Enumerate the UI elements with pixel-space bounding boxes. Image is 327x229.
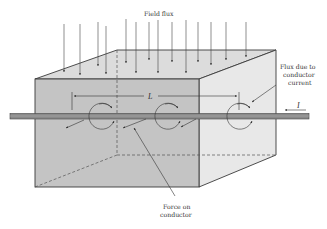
conductor-field-diagram: L I Field flux Flux due to conductor cur… [0,0,327,229]
force-label-2: conductor [160,211,192,218]
flux-due-label-2: conductor [283,71,315,78]
flux-due-label-3: current [288,79,312,86]
flux-due-label-1: Flux due to [280,63,316,70]
length-label: L [147,92,153,101]
conductor [10,114,309,120]
force-label-1: Force on [163,203,190,210]
current-label: I [296,101,300,110]
field-flux-label: Field flux [144,10,174,17]
